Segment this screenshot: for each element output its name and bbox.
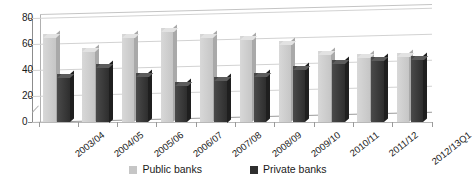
bar-face bbox=[279, 41, 292, 122]
private-banks-swatch bbox=[250, 166, 258, 174]
bar-face bbox=[161, 28, 174, 122]
legend-item-public-banks: Public banks bbox=[129, 164, 202, 175]
bar-face bbox=[411, 56, 424, 122]
value-axis-label: 20 bbox=[22, 91, 24, 101]
category-label: 2011/12 bbox=[388, 130, 421, 159]
category-label: 2003/04 bbox=[73, 130, 106, 159]
chart-legend: Public banks Private banks bbox=[0, 164, 456, 175]
category-label: 2007/08 bbox=[230, 130, 263, 159]
category-label: 2009/10 bbox=[309, 130, 342, 159]
bar bbox=[161, 28, 174, 122]
bar-face bbox=[240, 36, 253, 122]
bar bbox=[57, 74, 70, 122]
bar-face bbox=[200, 34, 213, 122]
value-axis-label: 80 bbox=[22, 13, 24, 23]
legend-label-public-banks: Public banks bbox=[142, 164, 202, 175]
bar bbox=[357, 54, 370, 122]
category-label: 2012/13Q1 bbox=[430, 130, 473, 167]
bar bbox=[397, 53, 410, 122]
public-banks-swatch bbox=[129, 166, 137, 174]
bar-side bbox=[384, 53, 388, 122]
bar-side bbox=[70, 70, 74, 122]
bar bbox=[175, 82, 188, 122]
bar bbox=[240, 36, 253, 122]
bar bbox=[136, 73, 149, 122]
category-tick bbox=[392, 122, 393, 127]
bar bbox=[96, 64, 109, 123]
bar bbox=[318, 51, 331, 123]
bar-side bbox=[345, 56, 349, 122]
legend-label-private-banks: Private banks bbox=[263, 164, 327, 175]
bar bbox=[214, 77, 227, 123]
bar-face bbox=[318, 51, 331, 123]
bar bbox=[411, 56, 424, 122]
category-tick bbox=[235, 122, 236, 127]
bar bbox=[43, 34, 56, 122]
category-tick bbox=[196, 122, 197, 127]
bar-face bbox=[214, 77, 227, 123]
bar-face bbox=[136, 73, 149, 122]
bar-side bbox=[423, 52, 427, 122]
bar-face bbox=[122, 34, 135, 122]
bar bbox=[200, 34, 213, 122]
bar-face bbox=[357, 54, 370, 122]
bar-face bbox=[371, 57, 384, 122]
category-tick bbox=[314, 122, 315, 127]
bar bbox=[279, 41, 292, 122]
category-tick bbox=[156, 122, 157, 127]
bar bbox=[122, 34, 135, 122]
bar-face bbox=[57, 74, 70, 122]
category-tick bbox=[353, 122, 354, 127]
bar bbox=[371, 57, 384, 122]
bar-face bbox=[175, 82, 188, 122]
bar-face bbox=[43, 34, 56, 122]
bar bbox=[82, 48, 95, 122]
category-label: 2006/07 bbox=[191, 130, 224, 159]
legend-item-private-banks: Private banks bbox=[250, 164, 327, 175]
bar-face bbox=[96, 64, 109, 123]
bar-face bbox=[397, 53, 410, 122]
category-label: 2005/06 bbox=[152, 130, 185, 159]
bar-face bbox=[254, 73, 267, 122]
category-tick bbox=[39, 122, 40, 127]
bar-side bbox=[148, 69, 152, 122]
plot-area: 020406080 2003/042004/052005/062006/0720… bbox=[32, 4, 440, 124]
category-tick bbox=[78, 122, 79, 127]
bar bbox=[293, 66, 306, 122]
bar-face bbox=[332, 60, 345, 122]
value-axis-label: 40 bbox=[22, 65, 24, 75]
category-label: 2004/05 bbox=[113, 130, 146, 159]
category-tick bbox=[432, 122, 433, 127]
category-label: 2008/09 bbox=[270, 130, 303, 159]
bar-side bbox=[305, 63, 309, 122]
category-tick bbox=[117, 122, 118, 127]
bar-face bbox=[293, 66, 306, 122]
bar-face bbox=[82, 48, 95, 122]
value-axis-label: 60 bbox=[22, 39, 24, 49]
bar-series-container bbox=[32, 4, 440, 124]
bar-side bbox=[266, 69, 270, 122]
bar bbox=[332, 60, 345, 122]
bar bbox=[254, 73, 267, 122]
value-axis-label: 0 bbox=[22, 117, 24, 127]
bar-side bbox=[109, 60, 113, 122]
category-label: 2010/11 bbox=[348, 130, 381, 159]
category-tick bbox=[274, 122, 275, 127]
